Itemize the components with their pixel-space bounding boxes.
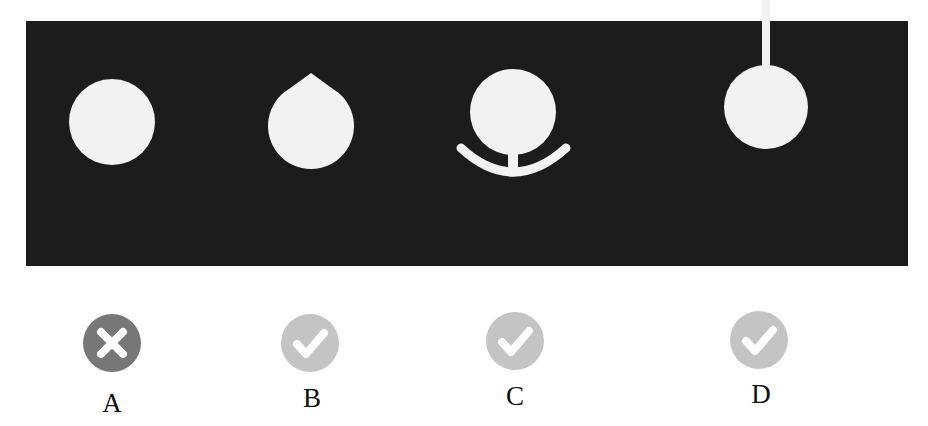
option-label-a: A <box>82 388 142 419</box>
diagram-stage: A B C D <box>0 0 928 426</box>
check-circle-icon <box>486 312 544 370</box>
check-circle-icon <box>730 311 788 369</box>
shape-a-circle <box>69 79 155 165</box>
check-circle-icon <box>281 314 339 372</box>
option-label-b: B <box>282 383 342 414</box>
option-label-d: D <box>731 379 791 410</box>
x-circle-icon <box>83 314 141 372</box>
option-label-c: C <box>485 381 545 412</box>
